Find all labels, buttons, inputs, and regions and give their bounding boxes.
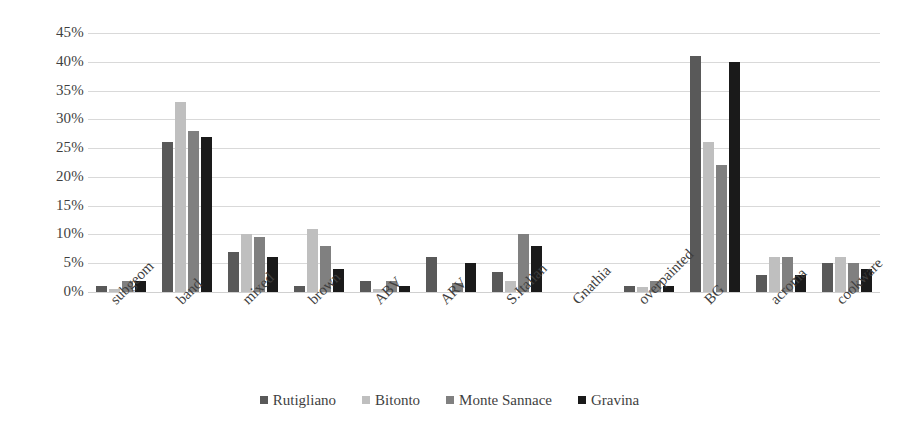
chart-legend: RutiglianoBitontoMonte SannaceGravina [0, 392, 899, 408]
legend-label: Rutigliano [273, 392, 336, 408]
y-axis-tick-label: 20% [40, 169, 84, 184]
bar-group [814, 33, 880, 292]
y-axis-tick-label: 35% [40, 83, 84, 98]
bar-group [550, 33, 616, 292]
bar [162, 142, 173, 292]
bar [228, 252, 239, 292]
bar-chart: 0%5%10%15%20%25%30%35%40%45% subgeomband… [0, 0, 899, 441]
bar-group [88, 33, 154, 292]
bar-groups [88, 33, 880, 292]
y-axis-tick-label: 30% [40, 111, 84, 126]
plot-area [88, 33, 880, 292]
bar [703, 142, 714, 292]
y-axis-tick-label: 45% [40, 25, 84, 40]
bar-group [154, 33, 220, 292]
y-axis-tick-label: 15% [40, 198, 84, 213]
bar [426, 257, 437, 292]
legend-label: Gravina [591, 392, 639, 408]
legend-swatch-icon [362, 396, 370, 404]
bar-group [484, 33, 550, 292]
legend-item[interactable]: Rutigliano [260, 392, 336, 408]
bar [175, 102, 186, 292]
legend-item[interactable]: Bitonto [362, 392, 420, 408]
y-axis-tick-label: 0% [40, 284, 84, 299]
bar [492, 272, 503, 292]
bar [756, 275, 767, 292]
bar-group [616, 33, 682, 292]
bar [188, 131, 199, 292]
bar-group [220, 33, 286, 292]
bar [201, 137, 212, 292]
bar-group [352, 33, 418, 292]
bar-group [748, 33, 814, 292]
legend-item[interactable]: Gravina [578, 392, 639, 408]
y-axis-tick-label: 10% [40, 226, 84, 241]
legend-label: Bitonto [375, 392, 420, 408]
y-axis-tick-label: 5% [40, 255, 84, 270]
legend-label: Monte Sannace [459, 392, 552, 408]
bar-group [286, 33, 352, 292]
legend-swatch-icon [260, 396, 268, 404]
y-axis-tick-label: 25% [40, 140, 84, 155]
legend-swatch-icon [578, 396, 586, 404]
legend-item[interactable]: Monte Sannace [446, 392, 552, 408]
bar [360, 281, 371, 293]
y-axis: 0%5%10%15%20%25%30%35%40%45% [40, 33, 84, 292]
bar [716, 165, 727, 292]
x-axis: subgeombandmixedbrownABVARVS.ItalianGnat… [88, 292, 880, 382]
bar [307, 229, 318, 292]
legend-swatch-icon [446, 396, 454, 404]
bar-group [418, 33, 484, 292]
bar [729, 62, 740, 292]
y-axis-tick-label: 40% [40, 54, 84, 69]
bar [822, 263, 833, 292]
